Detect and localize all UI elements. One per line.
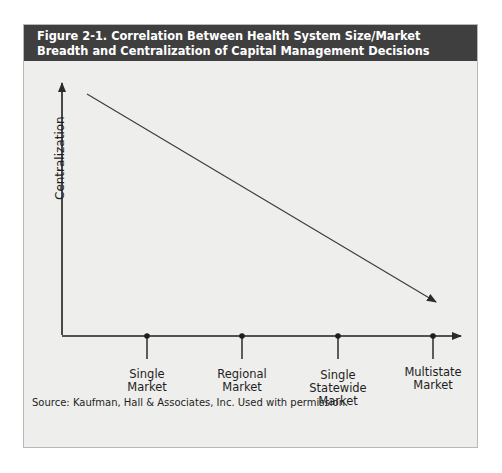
category-label-regional-market: Regional Market: [197, 368, 287, 394]
tick-single-statewide-market: [335, 333, 341, 359]
tick-single-market: [144, 333, 150, 359]
figure-panel: Figure 2-1. Correlation Between Health S…: [23, 24, 478, 448]
y-axis-label: Centralization: [53, 116, 67, 200]
category-label-single-market: Single Market: [102, 368, 192, 394]
tick-multistate-market: [430, 333, 436, 359]
tick-regional-market: [239, 333, 245, 359]
source-note: Source: Kaufman, Hall & Associates, Inc.…: [32, 397, 348, 408]
trend-arrow: [87, 94, 436, 302]
category-label-multistate-market: Multistate Market: [388, 366, 478, 392]
